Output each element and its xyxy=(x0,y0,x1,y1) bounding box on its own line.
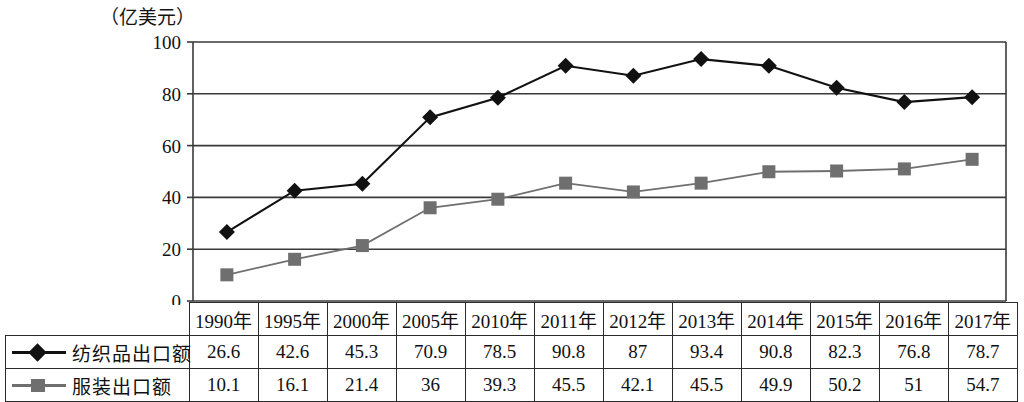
table-cell: 36 xyxy=(396,369,465,402)
diamond-marker-icon xyxy=(219,224,235,240)
square-marker-icon xyxy=(966,153,979,166)
table-col-header-9: 2015年 xyxy=(810,303,879,336)
table-cell: 70.9 xyxy=(396,336,465,369)
y-axis-tick-label: 80 xyxy=(162,84,181,105)
table-col-header-10: 2016年 xyxy=(879,303,948,336)
square-marker-icon xyxy=(559,177,572,190)
square-marker-icon xyxy=(220,268,233,281)
square-marker-icon xyxy=(762,165,775,178)
table-col-header-0: 1990年 xyxy=(189,303,258,336)
table-cell: 45.5 xyxy=(672,369,741,402)
diamond-marker-icon xyxy=(625,68,641,84)
y-axis-tick-label: 40 xyxy=(162,187,181,208)
series-line-square xyxy=(227,159,972,275)
table-col-header-2: 2000年 xyxy=(327,303,396,336)
y-axis-tick-label: 100 xyxy=(153,32,182,53)
table-cell: 90.8 xyxy=(741,336,810,369)
table-cell: 42.1 xyxy=(603,369,672,402)
series-markers xyxy=(219,51,980,281)
table-col-header-5: 2011年 xyxy=(534,303,603,336)
square-marker-icon xyxy=(491,193,504,206)
diamond-marker-icon xyxy=(287,183,303,199)
table-col-header-11: 2017年 xyxy=(948,303,1017,336)
square-marker-icon xyxy=(627,185,640,198)
table-header-row: 1990年1995年2000年2005年2010年2011年2012年2013年… xyxy=(6,303,1018,336)
table-cell: 76.8 xyxy=(879,336,948,369)
table-cell: 39.3 xyxy=(465,369,534,402)
table-cell: 16.1 xyxy=(258,369,327,402)
table-col-header-3: 2005年 xyxy=(396,303,465,336)
table-cell: 90.8 xyxy=(534,336,603,369)
table-row: 服装出口额 10.116.121.43639.345.542.145.549.9… xyxy=(6,369,1018,402)
plot-frame xyxy=(193,42,1006,301)
table-cell: 87 xyxy=(603,336,672,369)
legend-label-series2: 服装出口额 xyxy=(66,372,172,399)
square-marker-icon xyxy=(898,162,911,175)
square-marker-icon xyxy=(356,239,369,252)
table-cell: 21.4 xyxy=(327,369,396,402)
square-marker-icon xyxy=(12,376,66,394)
y-axis-tick-label: 20 xyxy=(162,239,181,260)
table-row: 纺织品出口额 26.642.645.370.978.590.88793.490.… xyxy=(6,336,1018,369)
table-cell: 51 xyxy=(879,369,948,402)
square-marker-icon xyxy=(288,253,301,266)
square-marker-icon xyxy=(830,164,843,177)
table-cell: 78.5 xyxy=(465,336,534,369)
y-axis-tick-label: 60 xyxy=(162,136,181,157)
square-marker-icon xyxy=(695,177,708,190)
table-cell: 82.3 xyxy=(810,336,879,369)
diamond-marker-icon xyxy=(490,90,506,106)
diamond-marker-icon xyxy=(558,58,574,74)
table-cell: 45.5 xyxy=(534,369,603,402)
table-col-header-6: 2012年 xyxy=(603,303,672,336)
table-col-header-8: 2014年 xyxy=(741,303,810,336)
table-cell: 10.1 xyxy=(189,369,258,402)
plot-gridlines xyxy=(187,42,1006,301)
diamond-marker-icon xyxy=(12,343,66,361)
legend-label-series1: 纺织品出口额 xyxy=(66,339,192,366)
table-cell: 93.4 xyxy=(672,336,741,369)
data-table: 1990年1995年2000年2005年2010年2011年2012年2013年… xyxy=(5,302,1018,402)
table-cell: 26.6 xyxy=(189,336,258,369)
series-lines xyxy=(227,59,972,275)
table-cell: 45.3 xyxy=(327,336,396,369)
table-col-header-1: 1995年 xyxy=(258,303,327,336)
line-chart-plot: 020406080100 xyxy=(0,0,1024,305)
y-axis-tick-labels: 020406080100 xyxy=(153,32,182,305)
table-cell: 49.9 xyxy=(741,369,810,402)
legend-cell-series2: 服装出口额 xyxy=(6,369,190,402)
table-cell: 54.7 xyxy=(948,369,1017,402)
diamond-marker-icon xyxy=(964,89,980,105)
diamond-marker-icon xyxy=(693,51,709,67)
diamond-marker-icon xyxy=(896,94,912,110)
table-col-header-4: 2010年 xyxy=(465,303,534,336)
diamond-marker-icon xyxy=(761,58,777,74)
table-col-header-7: 2013年 xyxy=(672,303,741,336)
square-marker-icon xyxy=(424,201,437,214)
table-corner-cell xyxy=(6,303,190,336)
table-cell: 78.7 xyxy=(948,336,1017,369)
legend-cell-series1: 纺织品出口额 xyxy=(6,336,190,369)
table-cell: 50.2 xyxy=(810,369,879,402)
table-cell: 42.6 xyxy=(258,336,327,369)
